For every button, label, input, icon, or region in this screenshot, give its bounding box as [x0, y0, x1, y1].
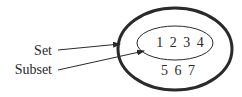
other-elements: 5 6 7 [161, 63, 195, 78]
set-label: Set [34, 43, 52, 58]
subset-label: Subset [15, 62, 52, 77]
set-subset-diagram: Set Subset 1 2 3 4 5 6 7 [0, 0, 242, 97]
subset-arrow [58, 51, 144, 70]
set-arrow [58, 44, 120, 50]
subset-elements: 1 2 3 4 [156, 35, 204, 50]
